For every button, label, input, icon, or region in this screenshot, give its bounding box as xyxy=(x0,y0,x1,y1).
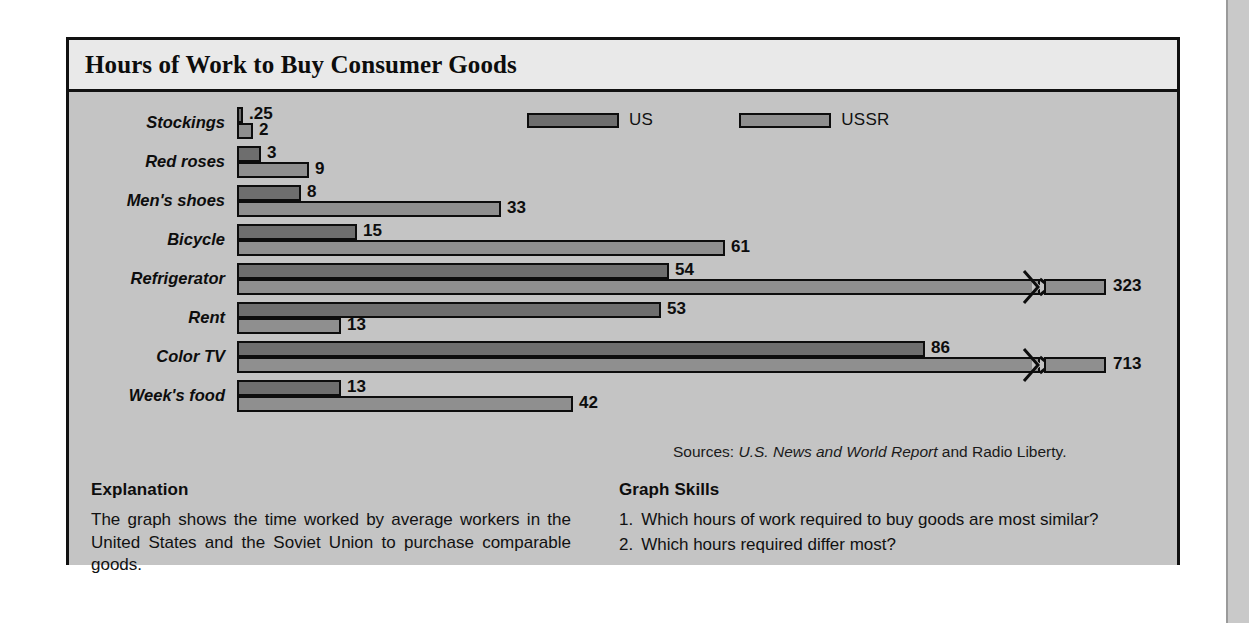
chart-row: Color TV86713 xyxy=(69,341,1177,380)
explanation-heading: Explanation xyxy=(91,480,617,500)
sources-prefix: Sources: xyxy=(673,443,738,460)
chart-bar-us xyxy=(237,380,341,396)
chart-bar-value: 9 xyxy=(315,159,324,179)
chart-bar-ussr-resumed xyxy=(1044,279,1106,295)
chart-bar-ussr xyxy=(237,201,501,217)
sources-note: Sources: U.S. News and World Report and … xyxy=(673,443,1066,461)
chart-category-label: Men's shoes xyxy=(69,191,225,210)
figure-frame: Hours of Work to Buy Consumer Goods US U… xyxy=(66,37,1180,565)
graph-skills-item-text: Which hours required differ most? xyxy=(641,534,1129,557)
sources-suffix: and Radio Liberty. xyxy=(937,443,1066,460)
chart-row: Refrigerator54323 xyxy=(69,263,1177,302)
chart-bar-value: 3 xyxy=(267,143,276,163)
graph-skills-item-number: 1. xyxy=(619,509,633,532)
chart-category-label: Bicycle xyxy=(69,230,225,249)
chart-bar-us xyxy=(237,263,669,279)
chart-bar-ussr xyxy=(237,318,341,334)
page-edge-strip xyxy=(1226,0,1249,623)
title-band: Hours of Work to Buy Consumer Goods xyxy=(69,40,1177,92)
sources-publication: U.S. News and World Report xyxy=(738,443,937,460)
page-title: Hours of Work to Buy Consumer Goods xyxy=(69,51,517,79)
chart-bar-value: 61 xyxy=(731,237,750,257)
graph-skills-heading: Graph Skills xyxy=(619,480,1177,500)
chart-bar-ussr xyxy=(237,240,725,256)
chart-bar-ussr xyxy=(237,357,1040,373)
chart-bar-ussr-resumed xyxy=(1044,357,1106,373)
chart-bar-value: 33 xyxy=(507,198,526,218)
chart-row: Red roses39 xyxy=(69,146,1177,185)
chart-bar-value: 13 xyxy=(347,377,366,397)
chart-bar-value: 13 xyxy=(347,315,366,335)
chart-category-label: Rent xyxy=(69,308,225,327)
chart-row: Rent5313 xyxy=(69,302,1177,341)
chart-bar-value: 323 xyxy=(1113,276,1141,296)
chart-bar-value: 54 xyxy=(675,260,694,280)
chart-category-label: Week's food xyxy=(69,386,225,405)
explanation-body: The graph shows the time worked by avera… xyxy=(91,509,571,577)
explanation-column: Explanation The graph shows the time wor… xyxy=(69,480,617,577)
graph-skills-column: Graph Skills 1.Which hours of work requi… xyxy=(617,480,1177,577)
chart-row: Bicycle1561 xyxy=(69,224,1177,263)
chart-bar-value: 713 xyxy=(1113,354,1141,374)
chart-bar-value: 15 xyxy=(363,221,382,241)
graph-skills-item-number: 2. xyxy=(619,534,633,557)
chart-row: Men's shoes833 xyxy=(69,185,1177,224)
chart-bar-ussr xyxy=(237,162,309,178)
chart-bar-ussr xyxy=(237,396,573,412)
figure-body: US USSR Stockings.252Red roses39Men's sh… xyxy=(69,92,1177,565)
chart-bar-us xyxy=(237,341,925,357)
chart-category-label: Stockings xyxy=(69,113,225,132)
chart-bar-value: 8 xyxy=(307,182,316,202)
chart-bar-us xyxy=(237,107,243,123)
chart-category-label: Color TV xyxy=(69,347,225,366)
graph-skills-item: 1.Which hours of work required to buy go… xyxy=(619,509,1129,532)
chart-category-label: Refrigerator xyxy=(69,269,225,288)
chart-row: Stockings.252 xyxy=(69,107,1177,146)
chart-bar-us xyxy=(237,224,357,240)
chart-bar-value: 53 xyxy=(667,299,686,319)
chart-bar-value: 42 xyxy=(579,393,598,413)
chart-bar-ussr xyxy=(237,279,1040,295)
chart-bar-value: 86 xyxy=(931,338,950,358)
chart-bar-value: 2 xyxy=(259,120,268,140)
bottom-columns: Explanation The graph shows the time wor… xyxy=(69,480,1177,577)
graph-skills-list: 1.Which hours of work required to buy go… xyxy=(619,509,1177,556)
chart-row: Week's food1342 xyxy=(69,380,1177,419)
chart-bar-us xyxy=(237,146,261,162)
graph-skills-item-text: Which hours of work required to buy good… xyxy=(641,509,1129,532)
chart-category-label: Red roses xyxy=(69,152,225,171)
chart-bar-ussr xyxy=(237,123,253,139)
graph-skills-item: 2.Which hours required differ most? xyxy=(619,534,1129,557)
chart-bar-us xyxy=(237,302,661,318)
chart-bar-us xyxy=(237,185,301,201)
bar-chart-plot: Stockings.252Red roses39Men's shoes833Bi… xyxy=(69,92,1177,412)
